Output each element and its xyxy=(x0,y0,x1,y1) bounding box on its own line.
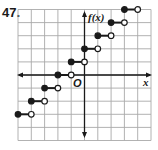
open-dot-icon xyxy=(82,59,88,65)
closed-dot-icon xyxy=(55,72,61,78)
y-axis-label: f(x) xyxy=(88,11,105,24)
step-segment xyxy=(29,98,48,104)
closed-dot-icon xyxy=(95,33,101,39)
step-segment xyxy=(15,112,34,118)
y-axis-down-arrow-icon xyxy=(82,132,87,138)
closed-dot-icon xyxy=(42,85,48,91)
closed-dot-icon xyxy=(15,112,21,118)
closed-dot-icon xyxy=(122,7,128,13)
open-dot-icon xyxy=(42,98,48,104)
open-dot-icon xyxy=(95,46,101,52)
step-segment xyxy=(82,46,101,52)
axes xyxy=(17,11,152,138)
open-dot-icon xyxy=(29,112,35,118)
open-dot-icon xyxy=(55,85,61,91)
closed-dot-icon xyxy=(82,46,88,52)
step-function-graph: 47. f(x) x O xyxy=(0,0,158,150)
origin-label: O xyxy=(73,77,82,89)
closed-dot-icon xyxy=(29,98,35,104)
closed-dot-icon xyxy=(108,20,114,26)
open-dot-icon xyxy=(108,33,114,39)
y-axis-up-arrow-icon xyxy=(82,11,87,17)
step-segment xyxy=(122,7,141,13)
step-segment xyxy=(68,59,87,65)
open-dot-icon xyxy=(135,7,141,13)
x-axis-label: x xyxy=(142,76,149,88)
problem-number: 47. xyxy=(2,5,20,20)
closed-dot-icon xyxy=(68,59,74,65)
step-segment xyxy=(108,20,127,26)
step-segment xyxy=(95,33,114,39)
open-dot-icon xyxy=(122,20,128,26)
step-segment xyxy=(42,85,61,91)
step-segment xyxy=(55,72,74,78)
